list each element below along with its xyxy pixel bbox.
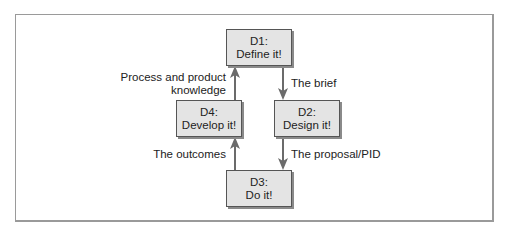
node-d1-title: Define it! <box>227 48 291 61</box>
node-d1-id: D1: <box>227 35 291 48</box>
node-d4-title: Develop it! <box>177 119 241 132</box>
edge-label-brief: The brief <box>291 77 336 90</box>
node-d2-title: Design it! <box>275 119 339 132</box>
arrow-d1-d2 <box>278 66 288 100</box>
node-d4-develop: D4: Develop it! <box>176 100 242 137</box>
node-d3-id: D3: <box>227 176 291 189</box>
edge-label-proposal: The proposal/PID <box>291 148 381 161</box>
arrow-d2-d3 <box>278 137 288 170</box>
edge-label-outcomes: The outcomes <box>153 148 226 161</box>
node-d4-id: D4: <box>177 106 241 119</box>
edge-label-knowledge: Process and product knowledge <box>121 71 226 97</box>
edge-label-knowledge-line1: Process and product <box>121 71 226 84</box>
node-d1-define: D1: Define it! <box>226 29 292 66</box>
arrow-d3-d4 <box>230 137 240 170</box>
arrow-d4-d1 <box>230 66 240 100</box>
node-d2-design: D2: Design it! <box>274 100 340 137</box>
node-d3-do: D3: Do it! <box>226 170 292 207</box>
node-d3-title: Do it! <box>227 189 291 202</box>
node-d2-id: D2: <box>275 106 339 119</box>
edge-label-knowledge-line2: knowledge <box>121 84 226 97</box>
